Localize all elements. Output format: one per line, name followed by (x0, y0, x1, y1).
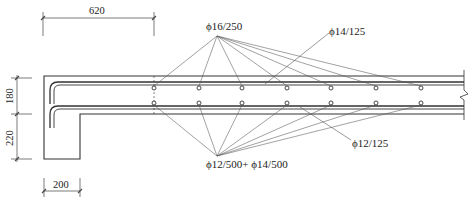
dim-top-width: 620 (89, 5, 105, 16)
leader-top-bars (217, 36, 376, 86)
leader-bottom-bars (199, 105, 217, 156)
leader-bottom-bars (217, 105, 287, 156)
top-rebar-inner (54, 85, 464, 104)
leader-top-bars (217, 36, 421, 86)
bottom-distribution-bar (197, 101, 201, 105)
label-top-bars: ϕ16/250 (206, 20, 243, 32)
leader-top-bars (199, 36, 217, 86)
leader-bottom-bars (217, 105, 421, 156)
leader-bottom-distribution (300, 107, 351, 140)
bottom-distribution-bar (374, 101, 378, 105)
top-distribution-bar (374, 86, 378, 90)
leader-bottom-bars (217, 105, 242, 156)
label-top-distribution: ϕ14/125 (329, 25, 366, 37)
top-distribution-bar (329, 86, 333, 90)
top-distribution-bar (240, 86, 244, 90)
leader-top-bars (217, 36, 242, 86)
dim-top-thickness: 180 (4, 88, 15, 104)
bottom-distribution-bar (240, 101, 244, 105)
leader-top-bars (154, 36, 217, 86)
top-distribution-bar (419, 86, 423, 90)
top-distribution-bar (285, 86, 289, 90)
bottom-distribution-bar (152, 101, 156, 105)
leader-top-bars (217, 36, 331, 86)
label-bottom-bars: ϕ12/500+ ϕ14/500 (206, 158, 288, 170)
top-distribution-bar (152, 86, 156, 90)
leader-top-bars (217, 36, 287, 86)
leader-bottom-bars (154, 105, 217, 156)
dim-step-height: 220 (4, 130, 15, 146)
label-bottom-distribution: ϕ12/125 (352, 137, 389, 149)
leader-bottom-bars (217, 105, 331, 156)
dim-bottom-width: 200 (53, 179, 69, 190)
slab-section-drawing: 620 180 220 200 ϕ16/250 ϕ14/125 ϕ12/500+… (0, 0, 474, 204)
top-distribution-bar (197, 86, 201, 90)
break-line (460, 70, 468, 120)
bottom-distribution-bar (285, 101, 289, 105)
bottom-distribution-bar (329, 101, 333, 105)
bottom-distribution-bar (419, 101, 423, 105)
